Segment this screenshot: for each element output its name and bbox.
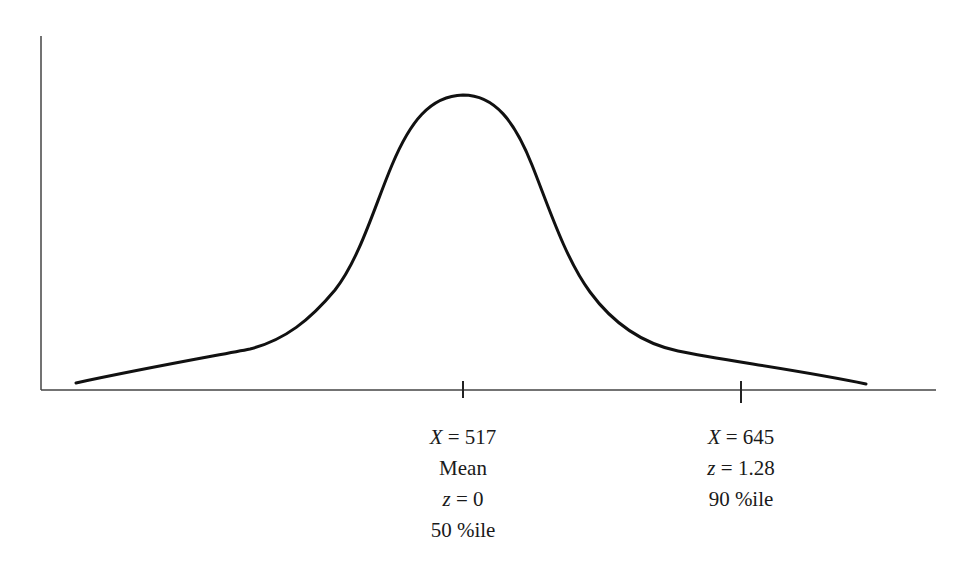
mean-marker-labels: X = 517 Mean z = 0 50 %ile	[430, 422, 497, 546]
mean-percentile-label: 50 %ile	[430, 515, 497, 546]
mean-x-label: X = 517	[430, 422, 497, 453]
p90-marker-labels: X = 645 z = 1.28 90 %ile	[707, 422, 774, 515]
p90-z-label: z = 1.28	[707, 453, 774, 484]
p90-x-label: X = 645	[707, 422, 774, 453]
mean-z-label: z = 0	[430, 484, 497, 515]
normal-curve	[76, 95, 866, 384]
mean-name-label: Mean	[430, 453, 497, 484]
p90-percentile-label: 90 %ile	[707, 484, 774, 515]
